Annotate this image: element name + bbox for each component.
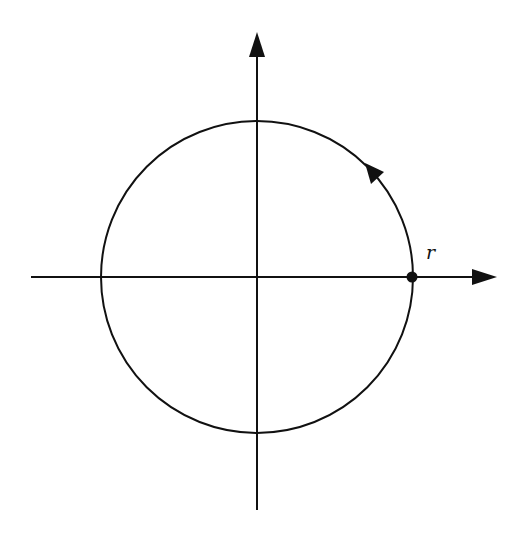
arrowhead-icon [365, 163, 384, 184]
arrow-right-icon [472, 269, 497, 285]
diagram-canvas: r [0, 0, 516, 535]
y-axis [249, 32, 265, 510]
arrow-up-icon [249, 32, 265, 57]
point-label-r: r [426, 241, 437, 263]
filled-dot-icon [407, 272, 418, 283]
